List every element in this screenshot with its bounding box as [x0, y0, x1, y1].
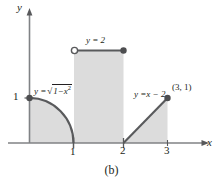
curve-label-linear: y =x − 2 [134, 90, 165, 99]
curve-label-linear-expr: x − 2 [146, 89, 165, 99]
y-tick-label-1: 1 [13, 91, 19, 102]
x-tick-label-2: 2 [120, 145, 126, 156]
curve-label-quarter-circle: y =√1−x2 [34, 84, 72, 96]
figure-panel-b: y x 1 1 2 3 y =√1−x2 y = 2 y =x − 2 (3, … [0, 0, 223, 185]
curve-label-qc-prefix: y = [34, 86, 46, 96]
region-rectangle [74, 51, 124, 143]
marker-open-1-2 [71, 47, 77, 53]
y-axis-arrow [27, 8, 33, 16]
curve-label-linear-y: y = [134, 89, 146, 99]
curve-label-qc-radicand: 1−x [53, 86, 68, 96]
y-axis-label: y [17, 2, 22, 13]
marker-closed-2-2 [120, 47, 126, 53]
curve-label-constant-two: y = 2 [86, 36, 105, 45]
marker-closed-0-1 [26, 95, 32, 101]
x-axis-label: x [207, 137, 212, 148]
x-tick-label-3: 3 [164, 145, 170, 156]
figure-caption: (b) [0, 163, 223, 178]
curve-label-qc-exponent: 2 [68, 84, 71, 91]
x-tick-label-1: 1 [70, 146, 76, 157]
radical-symbol: √1−x2 [46, 84, 72, 96]
annotation-point-3-1: (3, 1) [172, 83, 192, 92]
